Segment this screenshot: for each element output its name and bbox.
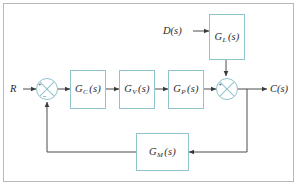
summer-minus-sign: −	[43, 93, 47, 99]
label-disturbance-input: D(s)	[163, 25, 182, 36]
block-measurement-label: GM(s)	[149, 146, 176, 159]
label-reference-input: R	[10, 83, 16, 94]
block-controller-label: GC(s)	[75, 83, 101, 96]
block-load-label: GL(s)	[214, 31, 239, 44]
summer-plus-sign: +	[38, 81, 42, 87]
summer-output-plus-sign: +	[219, 81, 223, 87]
block-diagram-figure: GC(s) GV(s) GP(s) GL(s) GM(s) + − + R D(…	[0, 0, 298, 186]
block-controller[interactable]: GC(s)	[70, 70, 106, 109]
block-measurement[interactable]: GM(s)	[136, 133, 189, 171]
block-valve[interactable]: GV(s)	[119, 70, 155, 109]
block-process[interactable]: GP(s)	[168, 70, 204, 109]
block-valve-label: GV(s)	[124, 83, 150, 96]
block-load-disturbance[interactable]: GL(s)	[209, 14, 245, 60]
label-controlled-output: C(s)	[270, 83, 288, 94]
block-process-label: GP(s)	[173, 83, 199, 96]
